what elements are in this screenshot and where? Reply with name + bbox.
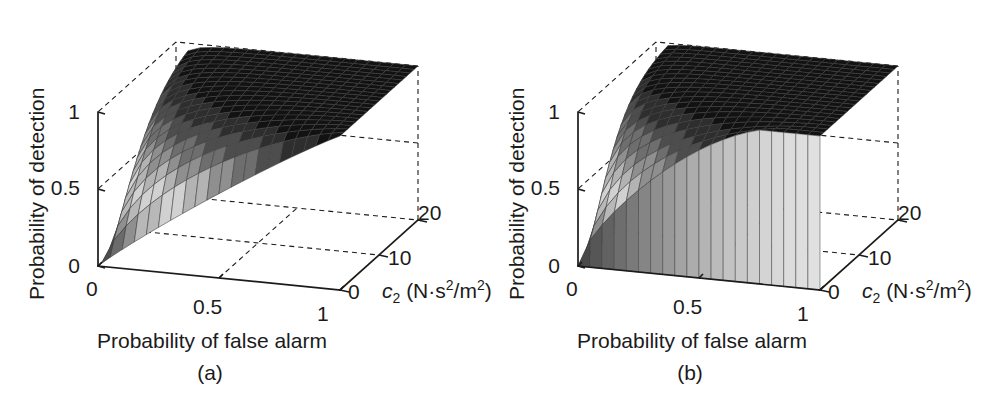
- y-axis-title: c2 (N·s2/m2): [862, 278, 972, 305]
- surface-panel-a: 00.5100.5101020Probability of detectionP…: [0, 0, 496, 400]
- y-axis-title: c2 (N·s2/m2): [382, 278, 492, 305]
- y-tick-label-2: 20: [418, 202, 441, 223]
- x-tick-label-0: 0: [86, 278, 98, 299]
- figure-root: 00.5100.5101020Probability of detectionP…: [0, 0, 992, 400]
- x-tick-label-2: 1: [797, 303, 809, 324]
- y-tick-label-1: 10: [388, 247, 411, 268]
- x-tick-label-1: 0.5: [193, 296, 222, 317]
- y-tick-label-2: 20: [898, 202, 921, 223]
- panel-caption-b: (b): [480, 362, 900, 383]
- x-tick-label-0: 0: [566, 278, 578, 299]
- z-axis-title: Probability of detection: [26, 88, 47, 300]
- x-tick-label-1: 0.5: [673, 296, 702, 317]
- x-axis-title: Probability of false alarm: [97, 330, 327, 351]
- y-tick-label-1: 10: [868, 247, 891, 268]
- y-tick-label-0: 0: [828, 281, 840, 302]
- surface-panel-b: 00.5100.5101020Probability of detectionP…: [480, 0, 976, 400]
- x-axis-title: Probability of false alarm: [577, 330, 807, 351]
- y-tick-label-0: 0: [348, 281, 360, 302]
- z-axis-title: Probability of detection: [506, 88, 527, 300]
- surface-mesh-a: [98, 47, 418, 266]
- panel-caption-a: (a): [0, 362, 420, 383]
- x-tick-label-2: 1: [317, 303, 329, 324]
